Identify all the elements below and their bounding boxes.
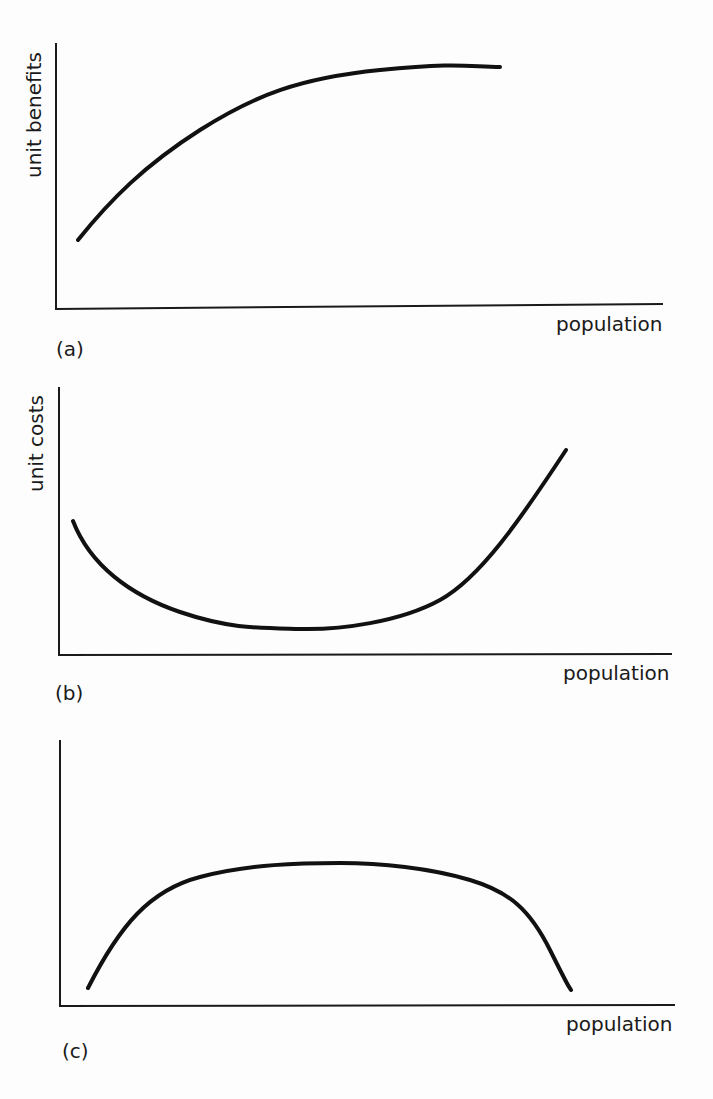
panel-a-tag: (a) [56, 339, 84, 359]
panel-b-ylabel: unit costs [26, 395, 46, 492]
panel-b-axes [58, 387, 672, 656]
panel-b-curve [73, 450, 566, 629]
panel-a-xlabel: population [556, 314, 662, 334]
figure-canvas [0, 0, 713, 1099]
panel-c-xlabel: population [566, 1014, 672, 1034]
panel-b-xlabel: population [563, 663, 669, 683]
panel-c-curve [88, 863, 571, 990]
panel-c-axes [60, 740, 675, 1007]
panel-b-tag: (b) [55, 683, 83, 703]
panel-a-ylabel: unit benefits [24, 52, 44, 178]
panel-a-axes [55, 43, 663, 310]
panel-a-curve [78, 65, 500, 240]
panel-c-tag: (c) [62, 1041, 89, 1061]
